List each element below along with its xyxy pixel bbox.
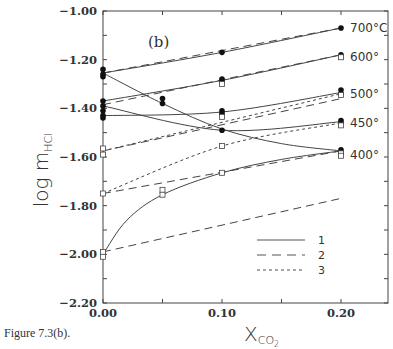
figure-caption: Figure 7.3(b). (4, 326, 70, 341)
x-axis-title-text: XCO2 (244, 322, 279, 349)
x-axis-title-svg: XCO2 (0, 0, 393, 349)
